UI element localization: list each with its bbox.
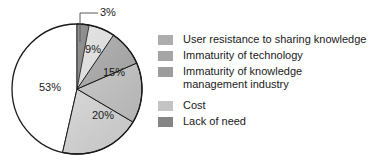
legend-item-immaturity-technology[interactable]: Immaturity of technology <box>157 49 375 62</box>
chart-legend: User resistance to sharing knowledge Imm… <box>157 33 375 131</box>
legend-swatch-icon <box>157 34 174 46</box>
pie-label-9: 9% <box>85 43 101 55</box>
pie-chart-screenshot: 3% 9% 15% 20% 53% User resistance to sha… <box>0 0 377 161</box>
pie-chart-area: 3% 9% 15% 20% 53% <box>0 0 160 161</box>
legend-item-lack-of-need[interactable]: Lack of need <box>157 115 375 128</box>
pie-label-20: 20% <box>92 109 114 121</box>
legend-swatch-icon <box>157 50 174 62</box>
legend-item-cost[interactable]: Cost <box>157 99 375 112</box>
legend-swatch-icon <box>157 116 174 128</box>
legend-item-label: Immaturity of technology <box>183 49 303 62</box>
legend-item-label: Lack of need <box>183 115 246 128</box>
pie-label-3: 3% <box>100 6 116 18</box>
legend-item-label: Immaturity of knowledge management indus… <box>183 65 302 91</box>
pie-label-53: 53% <box>39 81 61 93</box>
legend-item-immaturity-km-industry[interactable]: Immaturity of knowledge management indus… <box>157 65 375 91</box>
legend-swatch-icon <box>157 100 174 112</box>
legend-item-label: User resistance to sharing knowledge <box>183 33 366 46</box>
pie-chart-svg: 3% 9% 15% 20% 53% <box>0 0 160 161</box>
legend-swatch-icon <box>157 66 174 78</box>
legend-item-user-resistance[interactable]: User resistance to sharing knowledge <box>157 33 375 46</box>
legend-item-label: Cost <box>183 99 206 112</box>
pie-label-15: 15% <box>103 66 125 78</box>
